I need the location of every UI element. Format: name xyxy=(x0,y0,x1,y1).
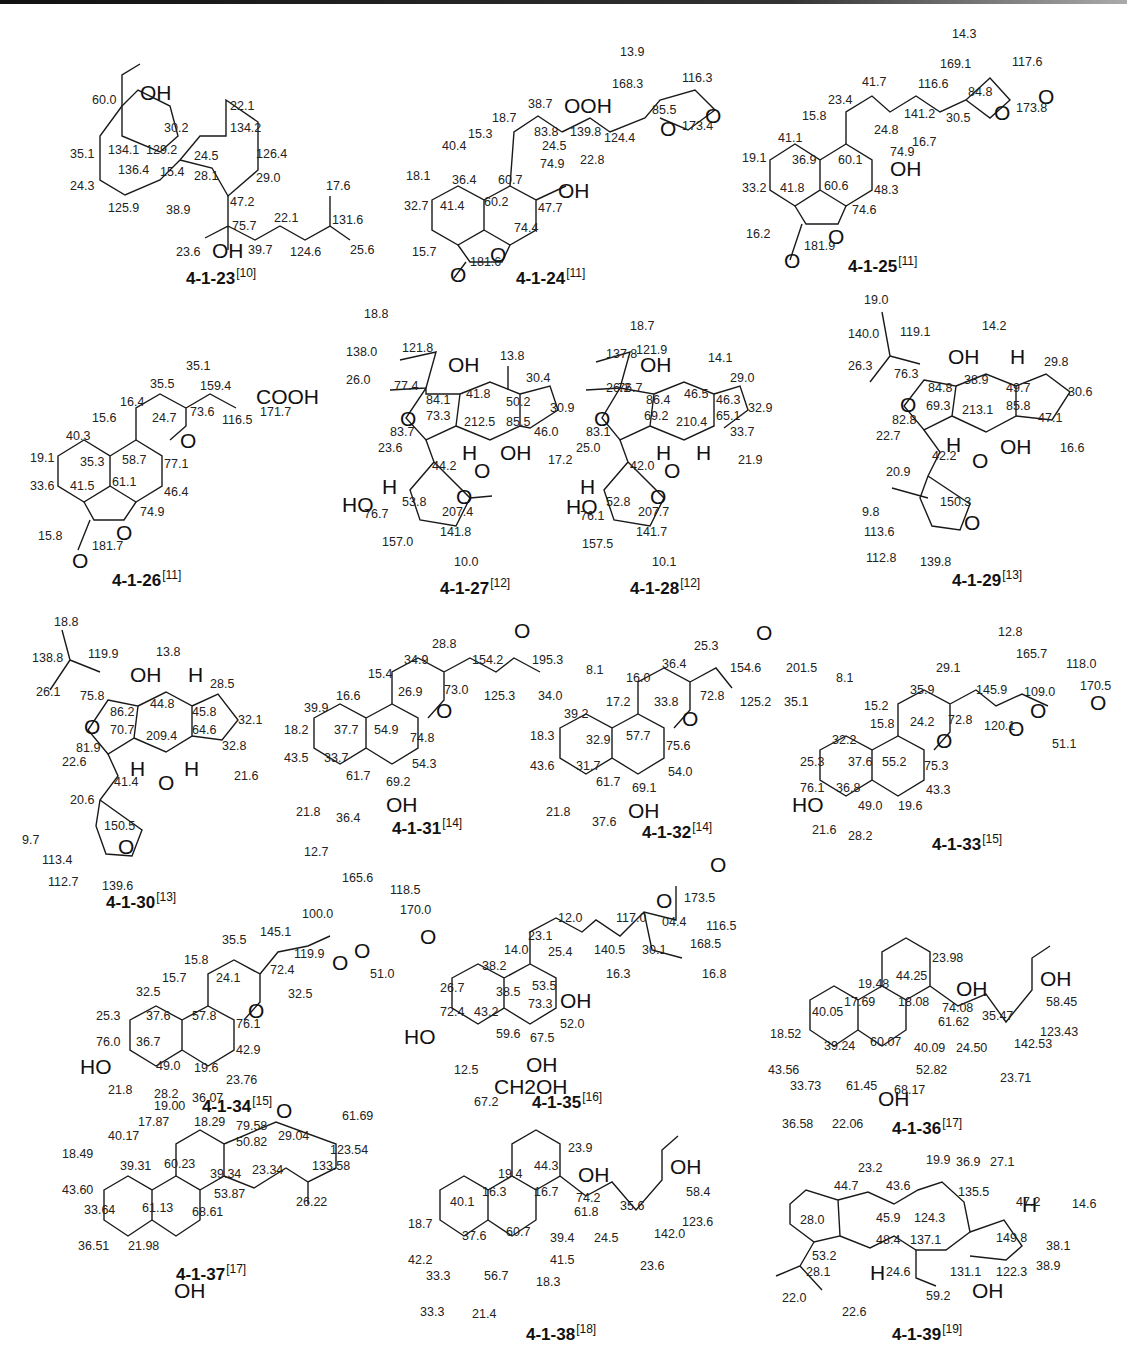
shift-value: 76.1 xyxy=(236,1018,260,1031)
shift-value: 36.4 xyxy=(452,174,476,187)
shift-value: 133.58 xyxy=(312,1160,350,1173)
shift-value: 73.0 xyxy=(444,684,468,697)
shift-value: 33.73 xyxy=(790,1080,821,1093)
shift-value: 30.5 xyxy=(946,112,970,125)
shift-value: 17.69 xyxy=(844,996,875,1009)
shift-value: 76.3 xyxy=(894,368,918,381)
shift-value: 109.0 xyxy=(1024,686,1055,699)
reference-citation: [14] xyxy=(692,820,712,834)
shift-value: 9.7 xyxy=(22,834,39,847)
shift-value: 150.3 xyxy=(940,496,971,509)
shift-value: 120.1 xyxy=(984,720,1015,733)
shift-value: 49.0 xyxy=(858,800,882,813)
reference-citation: [12] xyxy=(680,576,700,590)
oxygen-label: O xyxy=(180,430,196,451)
oxygen-label: O xyxy=(456,486,472,507)
shift-value: 36.4 xyxy=(336,812,360,825)
oxygen-label: O xyxy=(450,264,466,285)
shift-value: 25.3 xyxy=(694,640,718,653)
shift-value: 21.4 xyxy=(472,1308,496,1321)
compound-label: 4-1-35[16] xyxy=(532,1090,602,1113)
shift-value: 141.7 xyxy=(636,526,667,539)
hydroxyl-label: OH xyxy=(560,990,592,1011)
compound-label: 4-1-31[14] xyxy=(392,816,462,839)
shift-value: 23.98 xyxy=(932,952,963,965)
shift-value: 61.13 xyxy=(142,1202,173,1215)
oxygen-label: O xyxy=(900,394,916,415)
shift-value: 16.7 xyxy=(534,1186,558,1199)
shift-value: 39.24 xyxy=(824,1040,855,1053)
shift-value: 60.6 xyxy=(824,180,848,193)
shift-value: 83.7 xyxy=(390,426,414,439)
oxygen-label: O xyxy=(158,772,174,793)
shift-value: 59.6 xyxy=(496,1028,520,1041)
shift-value: 18.8 xyxy=(54,616,78,629)
shift-value: 74.9 xyxy=(890,146,914,159)
shift-value: 46.3 xyxy=(716,394,740,407)
shift-value: 52.82 xyxy=(916,1064,947,1077)
shift-value: 48.3 xyxy=(874,184,898,197)
hydroxyl-label: HO xyxy=(792,794,824,815)
shift-value: 24.3 xyxy=(70,180,94,193)
shift-value: 51.1 xyxy=(1052,738,1076,751)
shift-value: 12.0 xyxy=(558,912,582,925)
shift-value: 35.1 xyxy=(186,360,210,373)
shift-value: 32.7 xyxy=(404,200,428,213)
hydroxyl-label: OH xyxy=(448,354,480,375)
hydrogen-label: H xyxy=(1010,346,1025,367)
shift-value: 31.7 xyxy=(576,760,600,773)
shift-value: 49.0 xyxy=(156,1060,180,1073)
shift-value: 16.8 xyxy=(702,968,726,981)
shift-value: 38.9 xyxy=(964,374,988,387)
shift-value: 64.6 xyxy=(192,724,216,737)
shift-value: 100.0 xyxy=(302,908,333,921)
shift-value: 181.9 xyxy=(804,240,835,253)
compound-4-1-33: O O O O HO 12.8 165.7 118.0 29.1 170.5 3… xyxy=(800,610,1127,850)
shift-value: 47.7 xyxy=(538,202,562,215)
shift-value: 50.2 xyxy=(506,396,530,409)
shift-value: 18.49 xyxy=(62,1148,93,1161)
shift-value: 42.2 xyxy=(408,1254,432,1267)
shift-value: 135.5 xyxy=(958,1186,989,1199)
shift-value: 25.3 xyxy=(96,1010,120,1023)
compound-4-1-36: OH OH OH 23.98 44.25 19.48 17.69 18.08 7… xyxy=(750,880,1127,1110)
shift-value: 24.50 xyxy=(956,1042,987,1055)
shift-value: 37.7 xyxy=(334,724,358,737)
shift-value: 19.4 xyxy=(498,1168,522,1181)
shift-value: 134.2 xyxy=(230,122,261,135)
shift-value: 84.8 xyxy=(928,382,952,395)
shift-value: 48.4 xyxy=(876,1234,900,1247)
shift-value: 73.6 xyxy=(190,406,214,419)
shift-value: 13.9 xyxy=(620,46,644,59)
shift-value: 113.6 xyxy=(864,526,894,539)
shift-value: 34.9 xyxy=(404,654,428,667)
hydroxyl-label: OH xyxy=(212,240,244,261)
shift-value: 72.8 xyxy=(948,714,972,727)
shift-value: 173.5 xyxy=(684,892,715,905)
shift-value: 25.4 xyxy=(548,946,572,959)
shift-value: 140.5 xyxy=(594,944,625,957)
shift-value: 9.8 xyxy=(862,506,879,519)
shift-value: 17.87 xyxy=(138,1116,169,1129)
shift-value: 51.0 xyxy=(370,968,394,981)
oxygen-label: O xyxy=(784,250,800,271)
oxygen-label: O xyxy=(650,486,666,507)
shift-value: 21.8 xyxy=(546,806,570,819)
shift-value: 58.7 xyxy=(122,454,146,467)
shift-value: 18.3 xyxy=(536,1276,560,1289)
shift-value: 60.7 xyxy=(498,174,522,187)
shift-value: 32.2 xyxy=(832,734,856,747)
shift-value: 33.6 xyxy=(30,480,54,493)
shift-value: 36.4 xyxy=(662,658,686,671)
shift-value: 42.0 xyxy=(630,460,654,473)
shift-value: 61.45 xyxy=(846,1080,877,1093)
shift-value: 39.7 xyxy=(248,244,272,257)
shift-value: 33.3 xyxy=(420,1306,444,1319)
shift-value: 76.7 xyxy=(618,382,642,395)
compound-id: 4-1-27 xyxy=(440,579,489,598)
shift-value: 165.7 xyxy=(1016,648,1047,661)
shift-value: 76.7 xyxy=(364,508,388,521)
carboxylic-acid-label: COOH xyxy=(256,386,319,407)
compound-4-1-32: O O OH 25.3 36.4 154.6 201.5 8.1 16.0 72… xyxy=(520,610,740,840)
oxygen-label: O xyxy=(972,450,988,471)
